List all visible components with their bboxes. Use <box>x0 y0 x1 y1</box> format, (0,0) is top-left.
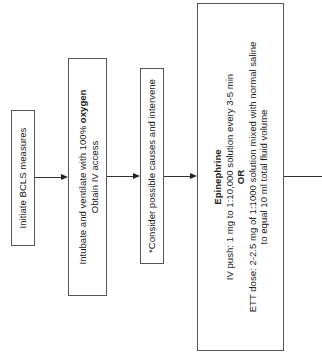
intubate-line-1: Intubate and ventilate with 100% oxygen <box>76 90 88 265</box>
step-text-consider-causes: *Consider possible causes and intervene <box>146 79 158 253</box>
step-box-epinephrine: Epinephrine IV push: 1 mg to 1:10,000 so… <box>197 3 284 351</box>
ett-dose-line-1: ETT dose: 2-2.5 mg of 1:1000 solution mi… <box>246 42 258 313</box>
or-separator: OR <box>235 42 247 313</box>
arrowhead-icon <box>133 173 140 179</box>
ett-dose-line-2: to equal 10 ml total fluid volume <box>258 42 270 313</box>
intubate-line-2: Obtain IV access <box>88 90 100 265</box>
step-box-initiate-bcls: Initiate BCLS measures <box>11 110 35 246</box>
step-box-consider-causes: *Consider possible causes and intervene <box>140 68 164 264</box>
connector-bcls-to-intubate <box>35 177 63 178</box>
step-text-epinephrine: Epinephrine IV push: 1 mg to 1:10,000 so… <box>212 42 270 313</box>
iv-push-dose: IV push: 1 mg to 1:10,000 solution every… <box>223 42 235 313</box>
oxygen-emphasis: oxygen <box>76 90 87 124</box>
epinephrine-title: Epinephrine <box>212 42 224 313</box>
connector-epinephrine-to-next <box>284 176 322 177</box>
arrowhead-icon <box>61 174 68 180</box>
connector-causes-to-epinephrine <box>164 176 192 177</box>
step-text-initiate-bcls: Initiate BCLS measures <box>17 128 29 229</box>
arrowhead-icon <box>190 173 197 179</box>
step-text-intubate-ventilate: Intubate and ventilate with 100% oxygen … <box>76 90 99 265</box>
connector-intubate-to-causes <box>107 176 135 177</box>
step-box-intubate-ventilate: Intubate and ventilate with 100% oxygen … <box>68 58 107 296</box>
